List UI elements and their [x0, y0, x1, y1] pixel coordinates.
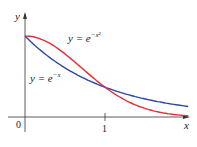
tick-label-1: 1 — [102, 123, 107, 134]
y-axis-arrow-icon — [23, 12, 27, 19]
x-axis-label: x — [184, 119, 189, 131]
y-axis-label: y — [15, 10, 20, 22]
chart: y x 0 1 y = e−x² y = e−x — [0, 0, 197, 147]
annotation-blue: y = e−x — [30, 71, 61, 84]
annotation-red: y = e−x² — [68, 31, 101, 44]
origin-label: 0 — [16, 119, 21, 130]
